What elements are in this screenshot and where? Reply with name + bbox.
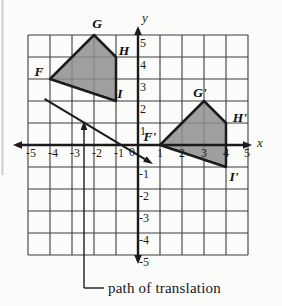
y-tick: 4 [140,58,146,72]
translation-path-arrowhead-icon [143,156,153,164]
x-tick: 0 [129,145,135,159]
y-tick: 3 [140,80,146,94]
x-tick: 2 [179,146,185,160]
vertex-label-F-prime: F' [143,129,157,144]
vertex-label-G: G [92,16,102,31]
vertex-label-F: F [33,64,43,79]
y-tick: -1 [139,167,149,181]
y-tick: -3 [139,211,149,225]
x-tick: 1 [157,146,163,160]
vertex-label-G-prime: G' [193,85,207,100]
x-axis-label: x [256,135,263,150]
y-tick: -4 [139,233,149,247]
caption-path-of-translation: path of translation [108,280,221,296]
x-tick: -1 [114,146,124,160]
image-polygon-FGHI-prime [160,101,226,167]
x-tick: -4 [48,146,58,160]
vertex-label-I-prime: I' [228,169,238,184]
vertex-label-H-prime: H' [232,110,248,125]
x-tick: 5 [244,146,250,160]
x-tick: 3 [201,146,207,160]
figure-canvas: -5 -4 -3 -2 -1 0 1 2 3 4 5 5 4 3 2 1 -1 … [0,0,282,306]
y-tick: 2 [140,102,146,116]
vertex-label-I: I [116,86,123,101]
x-tick: -5 [26,146,36,160]
vertex-label-H: H [118,43,130,58]
y-axis-tick-labels: 5 4 3 2 1 -1 -2 -3 -4 -5 [139,36,149,269]
y-axis-label: y [140,10,148,25]
y-axis-top-arrowhead-icon [134,26,142,35]
x-tick: 4 [223,146,229,160]
coordinate-plane-figure: -5 -4 -3 -2 -1 0 1 2 3 4 5 5 4 3 2 1 -1 … [0,0,282,306]
y-tick: -5 [139,255,149,269]
preimage-polygon-FGHI [50,35,116,101]
caption-leader-arrowhead-icon [81,121,88,130]
x-axis-left-arrowhead-icon [13,141,22,149]
x-tick: -2 [92,146,102,160]
y-tick: -2 [139,189,149,203]
x-tick: -3 [70,146,80,160]
y-tick: 5 [140,36,146,50]
